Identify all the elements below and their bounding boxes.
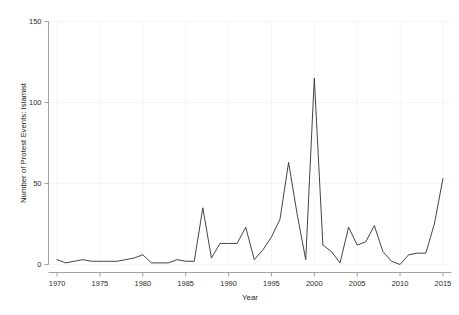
x-axis-title: Year bbox=[242, 293, 258, 302]
vertical-gridlines bbox=[57, 22, 443, 265]
x-tick-label: 1970 bbox=[49, 279, 66, 288]
y-tick-label: 150 bbox=[29, 17, 42, 26]
x-tick-label: 1980 bbox=[134, 279, 151, 288]
y-tick-label: 50 bbox=[33, 179, 41, 188]
x-tick-label: 1985 bbox=[177, 279, 194, 288]
x-tick-label: 2010 bbox=[392, 279, 409, 288]
y-tick-label: 0 bbox=[37, 260, 41, 269]
x-tick-label: 2015 bbox=[435, 279, 452, 288]
x-tick-label: 1975 bbox=[92, 279, 109, 288]
y-axis-title: Number of Protest Events: Islamist bbox=[19, 82, 28, 203]
x-tick-label: 2005 bbox=[349, 279, 366, 288]
x-tick-label: 1995 bbox=[263, 279, 280, 288]
x-axis-ticks: 1970197519801985199019952000200520102015 bbox=[49, 273, 452, 288]
x-tick-label: 1990 bbox=[220, 279, 237, 288]
x-tick-label: 2000 bbox=[306, 279, 323, 288]
data-series-line bbox=[57, 78, 443, 264]
y-tick-label: 100 bbox=[29, 98, 42, 107]
horizontal-gridlines bbox=[49, 22, 452, 265]
y-axis-ticks: 050100150 bbox=[29, 17, 49, 269]
line-chart: 050100150 197019751980198519901995200020… bbox=[0, 0, 459, 315]
chart-container: 050100150 197019751980198519901995200020… bbox=[0, 0, 459, 315]
